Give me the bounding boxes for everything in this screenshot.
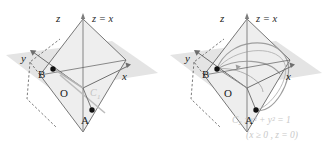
svg-text:C: C: [90, 87, 97, 98]
point-a-marker-right: [253, 107, 258, 112]
y-axis-label-left: y: [20, 52, 26, 64]
plane-label-left: z = x: [91, 13, 113, 24]
curve-c2-equation-right: C₂ : x² + y² = 1: [232, 115, 291, 125]
point-b-label-right: B: [202, 68, 209, 80]
x-axis-label-right: x: [285, 70, 291, 82]
z-axis-label-left: z: [55, 12, 61, 24]
svg-text:1: 1: [97, 93, 101, 101]
point-a-label-left: A: [81, 114, 89, 126]
x-axis-label-left: x: [121, 70, 127, 82]
z-axis-label-right: z: [219, 12, 225, 24]
y-axis-label-right: y: [184, 52, 190, 64]
plane-label-right: z = x: [255, 13, 277, 24]
curve-c2-domain-right: (x ≥ 0 , z = 0): [246, 130, 298, 141]
figure-root: z y x z = x B O A C 1: [0, 0, 328, 155]
origin-label-left: O: [60, 87, 68, 99]
point-a-marker-left: [89, 107, 94, 112]
origin-label-right: O: [224, 87, 232, 99]
point-b-marker-left: [50, 66, 55, 71]
diagram-panel-right: z y x z = x B O A C₂ : x² + y² = 1 (x ≥ …: [164, 0, 328, 155]
point-b-label-left: B: [38, 68, 45, 80]
diagram-panel-left: z y x z = x B O A C 1: [0, 0, 164, 155]
point-b-marker-right: [214, 66, 219, 71]
